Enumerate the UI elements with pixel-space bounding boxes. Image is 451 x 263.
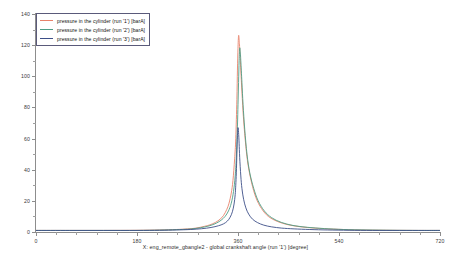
x-tick-minor bbox=[177, 232, 178, 235]
x-tick-major bbox=[137, 232, 138, 236]
x-tick-minor bbox=[218, 232, 219, 235]
plot-area bbox=[36, 14, 440, 232]
legend-item-label: pressure in the cylinder (run '3') [barA… bbox=[57, 36, 145, 42]
legend-item-label: pressure in the cylinder (run '1') [barA… bbox=[57, 18, 145, 24]
x-tick-minor bbox=[299, 232, 300, 235]
y-tick-label: 100 bbox=[21, 73, 30, 79]
y-tick-label: 60 bbox=[24, 136, 30, 142]
x-tick-major bbox=[339, 232, 340, 236]
series-line-3 bbox=[36, 128, 440, 231]
x-tick-minor bbox=[258, 232, 259, 235]
x-tick-minor bbox=[400, 232, 401, 235]
x-tick-minor bbox=[117, 232, 118, 235]
legend-item-3[interactable]: pressure in the cylinder (run '3') [barA… bbox=[40, 34, 145, 43]
y-tick-label: 40 bbox=[24, 167, 30, 173]
chart-container: 020406080100120140 0180360540720 pressur… bbox=[0, 0, 451, 263]
y-axis-ticks: 020406080100120140 bbox=[0, 0, 36, 263]
chart-legend: pressure in the cylinder (run '1') [barA… bbox=[36, 13, 150, 46]
series-lines bbox=[36, 14, 440, 232]
x-tick-minor bbox=[359, 232, 360, 235]
legend-item-1[interactable]: pressure in the cylinder (run '1') [barA… bbox=[40, 16, 145, 25]
legend-item-label: pressure in the cylinder (run '2') [barA… bbox=[57, 27, 145, 33]
x-tick-minor bbox=[56, 232, 57, 235]
y-tick-label: 80 bbox=[24, 104, 30, 110]
x-tick-major bbox=[440, 232, 441, 236]
y-tick-label: 120 bbox=[21, 42, 30, 48]
x-tick-minor bbox=[278, 232, 279, 235]
series-line-2 bbox=[36, 48, 440, 231]
x-tick-minor bbox=[76, 232, 77, 235]
x-tick-minor bbox=[319, 232, 320, 235]
y-tick-label: 140 bbox=[21, 11, 30, 17]
legend-color-swatch bbox=[40, 20, 53, 21]
x-tick-major bbox=[238, 232, 239, 236]
legend-item-2[interactable]: pressure in the cylinder (run '2') [barA… bbox=[40, 25, 145, 34]
x-tick-minor bbox=[97, 232, 98, 235]
x-tick-minor bbox=[379, 232, 380, 235]
x-axis-label: X: eng_remote_gbangle2 - global cranksha… bbox=[0, 244, 451, 250]
x-tick-minor bbox=[420, 232, 421, 235]
legend-color-swatch bbox=[40, 29, 53, 30]
y-tick-label: 20 bbox=[24, 198, 30, 204]
x-tick-minor bbox=[157, 232, 158, 235]
x-tick-major bbox=[36, 232, 37, 236]
legend-color-swatch bbox=[40, 38, 53, 39]
x-tick-minor bbox=[198, 232, 199, 235]
